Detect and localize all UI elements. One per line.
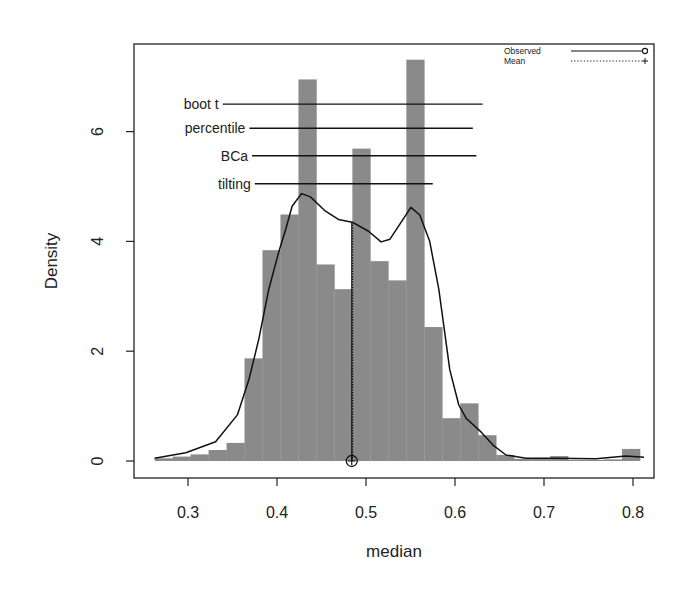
histogram-bar [604,459,622,461]
x-tick-label: 0.6 [444,504,466,521]
x-tick-label: 0.8 [622,504,644,521]
ci-label: boot t [184,96,219,112]
histogram-bar [316,264,334,461]
density-histogram-chart: boot tpercentileBCatilting 0.30.40.50.60… [0,0,694,607]
histogram-bar [568,460,586,461]
ci-label: BCa [221,148,248,164]
histogram-bar [280,215,298,462]
histogram-bar [622,449,640,461]
histogram-bar [173,457,191,461]
histogram-bar [370,261,388,461]
histogram-bar [155,458,173,461]
y-tick-label: 4 [89,237,106,246]
histogram-bar [514,459,532,461]
histogram-bar [352,149,370,461]
ci-label: percentile [185,120,246,136]
y-axis: 0246 [89,127,134,465]
ci-label: tilting [218,176,251,192]
confidence-interval-lines: boot tpercentileBCatilting [184,96,483,192]
histogram-bar [191,454,209,461]
legend-circle-icon [642,48,647,53]
x-tick-label: 0.3 [177,504,199,521]
legend-label-observed: Observed [504,46,541,56]
x-axis: 0.30.40.50.60.70.8 [177,478,644,521]
histogram-bar [442,418,460,461]
histogram-bar [298,79,316,461]
legend-plus-icon [642,58,648,64]
x-tick-label: 0.4 [266,504,288,521]
legend: ObservedMean [504,46,648,66]
histogram-bar [388,280,406,461]
histogram-bar [406,60,424,461]
histogram-bar [532,459,550,461]
x-tick-label: 0.7 [533,504,555,521]
y-tick-label: 6 [89,127,106,136]
histogram-bar [227,443,245,461]
x-axis-title: median [366,542,422,561]
histogram-bar [262,250,280,461]
legend-label-mean: Mean [504,56,526,66]
histogram-bar [209,450,227,461]
histogram-bar [245,358,263,461]
y-tick-label: 2 [89,347,106,356]
x-tick-label: 0.5 [355,504,377,521]
histogram-bar [424,327,442,461]
y-axis-title: Density [42,232,61,289]
histogram-bar [586,460,604,461]
histogram-bar [334,289,352,461]
y-tick-label: 0 [89,456,106,465]
